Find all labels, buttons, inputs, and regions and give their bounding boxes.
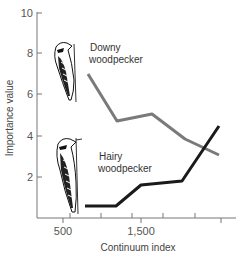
downy-woodpecker-icon [55,43,76,103]
x-tick-label-500: 500 [54,225,72,237]
y-tick-label-8: 8 [27,47,33,59]
x-tick-label-1500: 1,500 [127,225,155,237]
y-tick-label-6: 6 [27,88,33,100]
downy-woodpecker-line [88,74,219,155]
y-axis-label: Importance value [4,79,15,156]
hairy-woodpecker-icon [57,138,82,214]
hairy-label-line2: woodpecker [97,163,153,174]
downy-label-line2: woodpecker [88,54,144,65]
y-ticks [37,13,42,177]
line-chart: 10 8 6 4 2 500 1,500 Continuum index Imp… [0,0,241,260]
hairy-label-line1: Hairy [99,151,122,162]
x-axis-label: Continuum index [100,242,175,253]
y-tick-label-10: 10 [21,7,33,19]
chart-canvas: 10 8 6 4 2 500 1,500 Continuum index Imp… [0,0,241,260]
y-tick-label-2: 2 [27,171,33,183]
downy-label-line1: Downy [90,42,121,53]
y-tick-label-4: 4 [27,130,33,142]
